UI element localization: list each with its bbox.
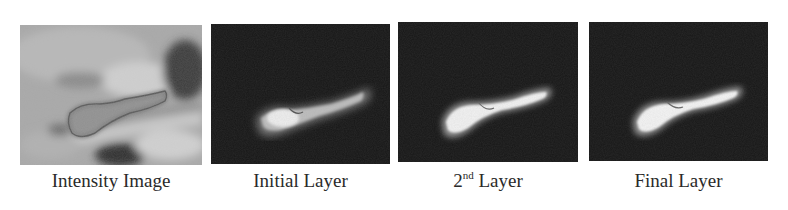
caption-second-ordinal: nd bbox=[463, 169, 474, 181]
caption-initial-layer: Initial Layer bbox=[211, 170, 390, 192]
initial-layer-panel bbox=[211, 24, 390, 164]
final-layer-panel bbox=[589, 22, 768, 161]
intensity-image-panel bbox=[20, 25, 202, 165]
second-layer-panel bbox=[398, 22, 578, 162]
second-layer-map bbox=[398, 22, 578, 162]
caption-second-text: Layer bbox=[474, 170, 523, 191]
initial-layer-map bbox=[211, 24, 390, 164]
caption-second-layer: 2nd Layer bbox=[398, 170, 578, 192]
intensity-image bbox=[20, 25, 202, 165]
final-layer-map bbox=[589, 22, 768, 161]
caption-final-layer: Final Layer bbox=[589, 170, 768, 192]
caption-intensity-image: Intensity Image bbox=[20, 170, 202, 192]
caption-second-number: 2 bbox=[453, 170, 463, 191]
